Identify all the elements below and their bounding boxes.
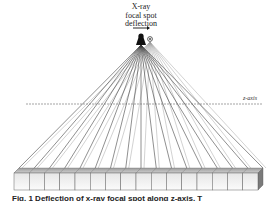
- diagram-canvas: [0, 0, 280, 201]
- focal-spot-diagram: X-ray focal spot deflection z-axis Fig. …: [0, 0, 280, 201]
- deflected-rays: [22, 42, 266, 168]
- detector-cell: [228, 173, 243, 190]
- detector-cell: [75, 173, 90, 190]
- detector-cell: [243, 173, 258, 190]
- detector-cell: [212, 173, 227, 190]
- detector-cell: [182, 173, 197, 190]
- detector-cell: [45, 173, 60, 190]
- title-line: deflection: [100, 20, 182, 29]
- diagram-title: X-ray focal spot deflection: [100, 3, 182, 29]
- detector-cell: [106, 173, 121, 190]
- detector-cell: [90, 173, 105, 190]
- detector-array: [14, 168, 263, 190]
- detector-cell: [14, 173, 29, 190]
- x-ray-fan: [19, 45, 263, 168]
- z-axis-label: z-axis: [243, 95, 257, 101]
- detector-cell: [197, 173, 212, 190]
- detector-cell: [136, 173, 151, 190]
- detector-cell: [60, 173, 75, 190]
- detector-cell: [121, 173, 136, 190]
- detector-cell: [167, 173, 182, 190]
- figure-caption: Fig. 1 Deflection of x-ray focal spot al…: [12, 194, 202, 201]
- detector-cell: [29, 173, 44, 190]
- detector-cell: [151, 173, 166, 190]
